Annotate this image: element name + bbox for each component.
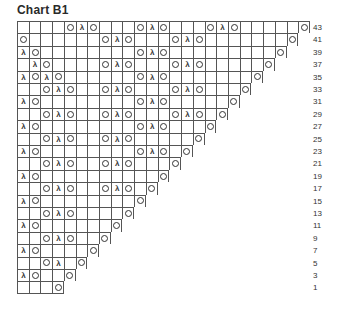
chart-cell: λ — [111, 33, 123, 45]
chart-cell — [76, 207, 88, 219]
decrease-icon: λ — [21, 271, 25, 280]
chart-cell: λ — [17, 269, 29, 281]
chart-cell — [29, 244, 41, 256]
yarn-over-icon — [32, 148, 39, 155]
yarn-over-icon — [172, 36, 179, 43]
chart-cell — [87, 157, 99, 169]
chart-row-35: λλλ — [17, 71, 263, 83]
chart-cell — [122, 207, 134, 219]
yarn-over-icon — [125, 160, 132, 167]
yarn-over-icon — [43, 235, 50, 242]
chart-cell — [40, 33, 52, 45]
chart-cell — [146, 182, 158, 194]
chart-cell — [146, 170, 158, 182]
chart-cell — [181, 21, 193, 33]
chart-row-43: λλλ — [17, 21, 310, 33]
chart-cell — [193, 46, 205, 58]
chart-cell: λ — [17, 219, 29, 231]
chart-cell — [52, 244, 64, 256]
decrease-icon: λ — [115, 85, 119, 94]
chart-cell — [134, 33, 146, 45]
yarn-over-icon — [43, 259, 50, 266]
yarn-over-icon — [102, 135, 109, 142]
chart-cell — [40, 95, 52, 107]
yarn-over-icon — [125, 185, 132, 192]
chart-cell — [87, 58, 99, 70]
chart-row-25: λλ — [17, 133, 205, 145]
chart-cell — [193, 120, 205, 132]
chart-cell — [111, 95, 123, 107]
chart-cell — [122, 133, 134, 145]
chart-cell — [76, 195, 88, 207]
chart-cell — [169, 120, 181, 132]
decrease-icon: λ — [56, 234, 60, 243]
yarn-over-icon — [32, 197, 39, 204]
chart-cell — [205, 95, 217, 107]
chart-cell — [40, 244, 52, 256]
decrease-icon: λ — [33, 60, 37, 69]
chart-cell — [64, 257, 76, 269]
chart-cell — [40, 281, 52, 293]
chart-cell — [169, 71, 181, 83]
chart-cell — [99, 170, 111, 182]
chart-cell — [287, 33, 299, 45]
chart-cell — [205, 33, 217, 45]
chart-cell: λ — [17, 46, 29, 58]
chart-cell — [228, 21, 240, 33]
yarn-over-icon — [66, 272, 73, 279]
chart-cell — [99, 232, 111, 244]
chart-cell — [228, 95, 240, 107]
chart-row-9: λ — [17, 232, 111, 244]
chart-cell — [134, 157, 146, 169]
yarn-over-icon — [172, 61, 179, 68]
chart-cell: λ — [52, 157, 64, 169]
chart-cell — [64, 46, 76, 58]
yarn-over-icon — [207, 24, 214, 31]
row-label: 35 — [313, 73, 333, 82]
chart-cell: λ — [111, 83, 123, 95]
chart-cell — [87, 120, 99, 132]
yarn-over-icon — [67, 210, 74, 217]
chart-row-33: λλλ — [17, 83, 251, 95]
chart-cell — [40, 207, 52, 219]
decrease-icon: λ — [115, 135, 119, 144]
chart-cell — [52, 21, 64, 33]
chart-cell — [240, 71, 252, 83]
chart-cell — [52, 120, 64, 132]
chart-cell — [99, 133, 111, 145]
chart-cell — [99, 120, 111, 132]
chart-cell: λ — [146, 46, 158, 58]
chart-cell — [99, 157, 111, 169]
decrease-icon: λ — [115, 35, 119, 44]
decrease-icon: λ — [185, 85, 189, 94]
yarn-over-icon — [254, 73, 261, 80]
chart-row-15: λ — [17, 195, 146, 207]
yarn-over-icon — [102, 36, 109, 43]
chart-cell — [76, 157, 88, 169]
chart-cell — [17, 21, 29, 33]
chart-cell — [17, 133, 29, 145]
row-label: 25 — [313, 135, 333, 144]
chart-cell — [64, 133, 76, 145]
chart-cell — [52, 281, 64, 293]
chart-cell — [122, 170, 134, 182]
yarn-over-icon — [160, 98, 167, 105]
chart-cell — [29, 207, 41, 219]
chart-cell — [29, 120, 41, 132]
chart-cell — [52, 170, 64, 182]
chart-cell — [193, 133, 205, 145]
chart-cell — [122, 120, 134, 132]
chart-cell — [64, 195, 76, 207]
chart-cell: λ — [52, 133, 64, 145]
yarn-over-icon — [32, 222, 39, 229]
chart-cell — [193, 21, 205, 33]
chart-cell — [87, 145, 99, 157]
chart-cell — [122, 195, 134, 207]
chart-cell — [111, 21, 123, 33]
row-label: 19 — [313, 172, 333, 181]
chart-cell — [52, 33, 64, 45]
chart-cell — [29, 257, 41, 269]
row-label: 15 — [313, 197, 333, 206]
chart-cell — [29, 269, 41, 281]
chart-cell: λ — [111, 182, 123, 194]
